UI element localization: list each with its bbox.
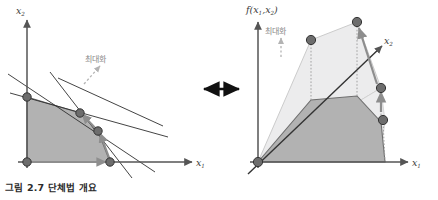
- axis-z-label-3d: f(x1,x2): [245, 4, 278, 16]
- left-panel-2d: x2 x1 최대화: [8, 5, 205, 178]
- vertex-top-2d: [23, 93, 31, 101]
- vertex-mid2-2d: [94, 127, 102, 135]
- maximize-label-2d: 최대화: [85, 54, 107, 64]
- vertex-mid1-2d: [76, 109, 84, 117]
- figure-canvas: x2 x1 최대화: [0, 0, 438, 200]
- vertex-low-3d: [378, 115, 387, 124]
- vertex-mid-3d: [376, 83, 385, 92]
- axis-x-label-3d: x1: [412, 157, 421, 169]
- figure-caption: 그림 2.7 단체법 개요: [5, 180, 97, 194]
- vertex-high-3d: [306, 35, 315, 44]
- right-panel-3d: f(x1,x2) x1 x2 최대화: [245, 4, 421, 174]
- maximize-arrow-2d: [84, 66, 100, 84]
- vertex-origin-3d: [253, 157, 262, 166]
- axis-y-label-2d: x2: [16, 5, 25, 17]
- vertex-peak-3d: [352, 17, 361, 26]
- figure-root: x2 x1 최대화: [0, 0, 438, 200]
- vertex-right-2d: [106, 158, 114, 166]
- maximize-label-3d: 최대화: [265, 26, 287, 36]
- vertex-origin-2d: [23, 158, 31, 166]
- axis-x-label-2d: x1: [196, 157, 205, 169]
- axis-x2-label-3d: x2: [384, 35, 393, 47]
